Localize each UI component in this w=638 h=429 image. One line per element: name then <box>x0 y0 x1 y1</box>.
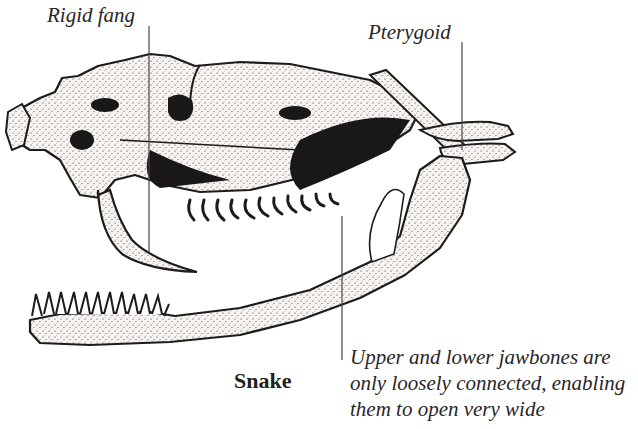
jawbone-caption: Upper and lower jawbones are only loosel… <box>350 344 625 422</box>
label-rigid-fang: Rigid fang <box>47 3 135 28</box>
upper-jaw-teeth <box>189 194 338 220</box>
rigid-fang <box>98 190 197 272</box>
label-pterygoid: Pterygoid <box>368 20 451 45</box>
lower-jaw-teeth <box>32 292 169 316</box>
caption-line-1: Upper and lower jawbones are <box>350 344 625 370</box>
cranium <box>10 54 420 198</box>
caption-line-2: only loosely connected, enabling <box>350 370 625 396</box>
diagram-title: Snake <box>234 368 291 394</box>
caption-line-3: them to open very wide <box>350 396 625 422</box>
